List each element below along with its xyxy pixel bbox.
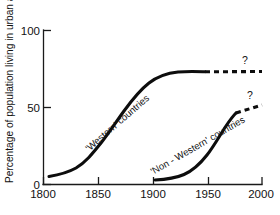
series-label-western: 'Western' countries bbox=[83, 92, 151, 153]
annotation-question-non-western: ? bbox=[247, 89, 253, 101]
y-axis-title: Percentage of population living in urban… bbox=[4, 0, 15, 183]
x-tick-label-1950: 1950 bbox=[195, 188, 221, 200]
urbanisation-line-chart: Percentage of population living in urban… bbox=[0, 0, 280, 215]
series-line-non-western-projection bbox=[236, 105, 262, 113]
x-tick-label-2000: 2000 bbox=[248, 188, 274, 200]
chart-container: Percentage of population living in urban… bbox=[0, 0, 280, 215]
y-tick-label-100: 100 bbox=[21, 25, 40, 37]
x-tick-label-1800: 1800 bbox=[30, 188, 56, 200]
annotation-question-western: ? bbox=[242, 54, 248, 66]
x-tick-label-1900: 1900 bbox=[140, 188, 166, 200]
cropped-caption-strip bbox=[0, 203, 280, 215]
y-tick-label-50: 50 bbox=[27, 102, 40, 114]
x-tick-label-1850: 1850 bbox=[85, 188, 111, 200]
